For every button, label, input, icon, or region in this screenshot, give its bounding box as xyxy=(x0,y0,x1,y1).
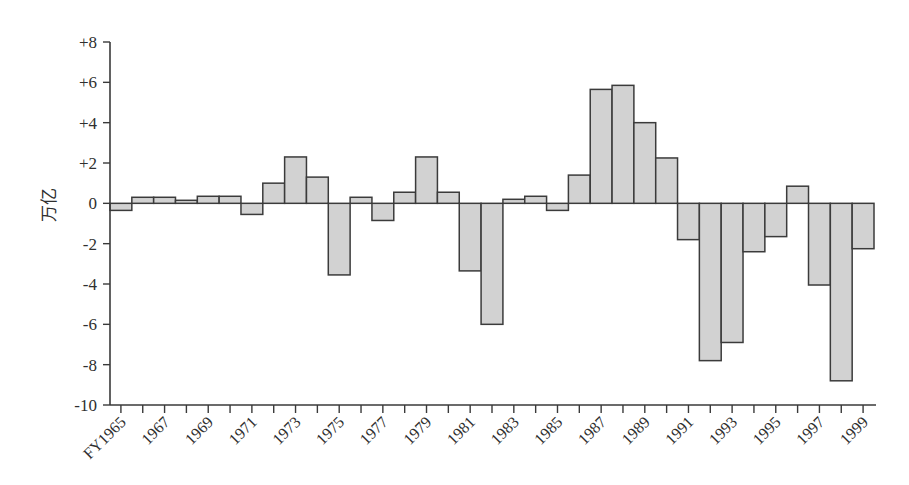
x-tick-label: 1971 xyxy=(225,413,260,448)
x-tick-label: 1993 xyxy=(706,413,741,448)
y-axis-title: 万亿 xyxy=(40,188,59,222)
x-tick-label: 1979 xyxy=(400,413,435,448)
x-tick-label: 1981 xyxy=(444,413,479,448)
bar-1968 xyxy=(175,200,197,203)
bar-chart: 万亿 +8+6+4+20-2-4-6-8-10 FY19651967196919… xyxy=(0,0,909,485)
x-axis-ticks xyxy=(121,405,863,413)
bar-1970 xyxy=(219,196,241,203)
bar-1966 xyxy=(132,197,154,203)
bar-1987 xyxy=(590,89,612,203)
x-axis-labels: FY19651967196919711973197519771979198119… xyxy=(80,413,871,462)
y-tick-label: +8 xyxy=(79,33,97,52)
y-axis-ticks: +8+6+4+20-2-4-6-8-10 xyxy=(74,33,110,415)
x-tick-label: 1989 xyxy=(618,413,653,448)
y-tick-label: -10 xyxy=(74,396,97,415)
x-tick-label: 1985 xyxy=(531,413,566,448)
bar-1983 xyxy=(503,199,525,203)
x-tick-label: 1975 xyxy=(313,413,348,448)
bar-1972 xyxy=(263,183,285,203)
bar-1982 xyxy=(481,203,503,324)
bar-1969 xyxy=(197,196,219,203)
y-tick-label: -6 xyxy=(83,315,97,334)
bar-1996 xyxy=(787,186,809,203)
bar-series xyxy=(110,85,874,380)
bar-1967 xyxy=(154,197,176,203)
bar-1981 xyxy=(459,203,481,271)
bar-1993 xyxy=(721,203,743,342)
bar-1994 xyxy=(743,203,765,251)
bar-1974 xyxy=(306,177,328,203)
bar-1976 xyxy=(350,197,372,203)
bar-1973 xyxy=(285,157,307,203)
x-tick-label: 1977 xyxy=(356,413,391,448)
x-tick-label: 1967 xyxy=(138,413,173,448)
bar-1978 xyxy=(394,192,416,203)
bar-FY1965 xyxy=(110,203,132,210)
x-tick-label: FY1965 xyxy=(80,413,129,462)
bar-1991 xyxy=(678,203,700,239)
y-tick-label: +6 xyxy=(79,73,97,92)
x-tick-label: 1969 xyxy=(182,413,217,448)
y-tick-label: +4 xyxy=(79,114,98,133)
x-tick-label: 1997 xyxy=(793,413,828,448)
y-tick-label: +2 xyxy=(79,154,97,173)
y-tick-label: 0 xyxy=(89,194,98,213)
y-tick-label: -4 xyxy=(83,275,98,294)
bar-1980 xyxy=(437,192,459,203)
bar-1977 xyxy=(372,203,394,220)
bar-1979 xyxy=(416,157,438,203)
bar-1988 xyxy=(612,85,634,203)
x-tick-label: 1995 xyxy=(749,413,784,448)
chart-canvas: 万亿 +8+6+4+20-2-4-6-8-10 FY19651967196919… xyxy=(0,0,909,485)
bar-1992 xyxy=(699,203,721,360)
bar-1989 xyxy=(634,123,656,204)
x-tick-label: 1987 xyxy=(575,413,610,448)
y-tick-label: -2 xyxy=(83,235,97,254)
bar-1990 xyxy=(656,158,678,203)
bar-1999 xyxy=(852,203,874,248)
bar-1986 xyxy=(568,175,590,203)
bar-1985 xyxy=(547,203,569,210)
bar-1971 xyxy=(241,203,263,214)
x-tick-label: 1999 xyxy=(837,413,872,448)
bar-1997 xyxy=(809,203,831,285)
x-tick-label: 1973 xyxy=(269,413,304,448)
x-tick-label: 1983 xyxy=(487,413,522,448)
y-axis-title-label: 万亿 xyxy=(40,188,59,222)
y-tick-label: -8 xyxy=(83,356,97,375)
bar-1975 xyxy=(328,203,350,275)
x-tick-label: 1991 xyxy=(662,413,697,448)
bar-1984 xyxy=(525,196,547,203)
bar-1998 xyxy=(830,203,852,380)
bar-1995 xyxy=(765,203,787,236)
